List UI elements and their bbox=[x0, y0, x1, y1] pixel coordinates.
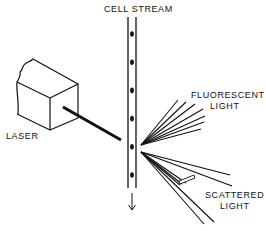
cells bbox=[130, 31, 134, 178]
fluorescent-rays bbox=[141, 100, 205, 145]
flow-cytometry-diagram: CELL STREAM LASER FLUORESCENT LIGHT SCAT… bbox=[0, 0, 266, 231]
laser-box bbox=[17, 59, 78, 130]
scattered-ray bbox=[141, 152, 214, 222]
cell bbox=[130, 172, 134, 178]
cell bbox=[130, 59, 134, 65]
cell-stream bbox=[128, 17, 136, 210]
cell bbox=[130, 88, 134, 94]
scattered-label-line2: LIGHT bbox=[220, 201, 250, 211]
laser-top-face bbox=[17, 59, 78, 84]
laser-broken-edge bbox=[17, 82, 18, 114]
laser-beam bbox=[63, 107, 121, 140]
cell bbox=[130, 116, 134, 122]
cell-stream-label: CELL STREAM bbox=[104, 4, 173, 14]
laser-front-face bbox=[17, 82, 50, 130]
scattered-rays bbox=[141, 152, 232, 224]
cell bbox=[130, 31, 134, 37]
scattered-ray bbox=[141, 152, 204, 224]
fluorescent-label-line2: LIGHT bbox=[210, 101, 240, 111]
fluorescent-ray bbox=[141, 109, 203, 145]
laser-label: LASER bbox=[6, 131, 39, 141]
scattered-label-line1: SCATTERED bbox=[205, 190, 264, 200]
fluorescent-label-line1: FLUORESCENT bbox=[191, 90, 265, 100]
cell bbox=[130, 144, 134, 150]
flow-arrow-icon bbox=[129, 193, 136, 210]
